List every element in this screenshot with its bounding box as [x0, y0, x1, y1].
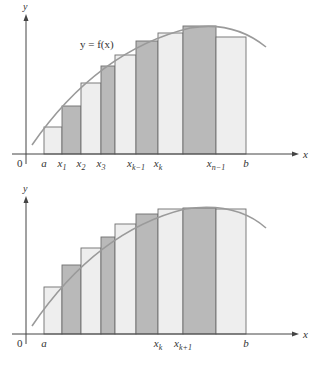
x-axis-arrow-icon	[292, 152, 299, 157]
x-axis-label: x	[302, 328, 308, 340]
partition-label: xk	[153, 157, 163, 172]
riemann-rectangle	[183, 208, 216, 334]
partition-label: b	[243, 157, 249, 169]
riemann-rectangle	[216, 37, 246, 154]
upper-sum-panel: yx0y = f(x)ax1x2x3xk−1xkxn−1b	[12, 1, 308, 172]
riemann-sum-figure: yx0y = f(x)ax1x2x3xk−1xkxn−1b yx0axkxk+1…	[0, 0, 319, 366]
y-axis-label: y	[22, 183, 28, 194]
x-axis-arrow-icon	[292, 332, 299, 337]
partition-label: x2	[76, 157, 86, 172]
x-axis-label: x	[302, 148, 308, 160]
curve-label: y = f(x)	[80, 38, 114, 51]
rectangles	[44, 26, 246, 154]
y-axis-arrow-icon	[24, 14, 29, 21]
riemann-rectangle	[136, 41, 158, 154]
partition-label: xk+1	[173, 337, 192, 352]
lower-sum-panel: yx0axkxk+1b	[12, 183, 308, 352]
partition-label: a	[41, 337, 47, 349]
riemann-rectangle	[183, 26, 216, 154]
partition-label: xk	[153, 337, 163, 352]
origin-label: 0	[17, 157, 23, 169]
partition-label: b	[243, 337, 249, 349]
y-axis-arrow-icon	[24, 196, 29, 203]
partition-label: xn−1	[206, 157, 225, 172]
riemann-rectangle	[62, 106, 81, 154]
rectangles	[44, 208, 246, 334]
riemann-rectangle	[136, 214, 158, 334]
riemann-rectangle	[62, 265, 81, 334]
riemann-rectangle	[101, 237, 115, 334]
riemann-sum-diagram: yx0y = f(x)ax1x2x3xk−1xkxn−1b yx0axkxk+1…	[0, 0, 319, 366]
partition-label: xk−1	[126, 157, 145, 172]
riemann-rectangle	[44, 127, 62, 154]
partition-label: x1	[57, 157, 67, 172]
riemann-rectangle	[101, 66, 115, 154]
riemann-rectangle	[115, 224, 136, 334]
riemann-rectangle	[44, 287, 62, 334]
riemann-rectangle	[81, 83, 101, 154]
origin-label: 0	[17, 337, 23, 349]
partition-label: a	[41, 157, 47, 169]
y-axis-label: y	[22, 1, 28, 12]
riemann-rectangle	[216, 209, 246, 334]
partition-label: x3	[96, 157, 106, 172]
riemann-rectangle	[158, 209, 183, 334]
riemann-rectangle	[158, 33, 183, 154]
riemann-rectangle	[81, 248, 101, 334]
riemann-rectangle	[115, 55, 136, 154]
